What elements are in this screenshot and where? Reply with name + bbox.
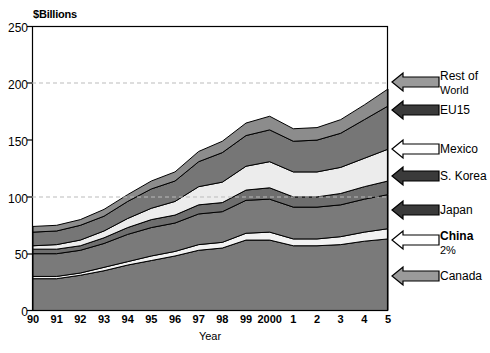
legend-label-rest-of-world: Rest of	[440, 70, 478, 82]
legend-sublabel-rest-of-world: World	[440, 84, 469, 96]
legend-arrow-mexico	[392, 140, 439, 158]
chart-plot-svg	[0, 0, 490, 353]
legend-arrow-rest-of-world	[392, 73, 439, 91]
x-axis-title: Year	[175, 330, 245, 342]
legend-arrow-china	[392, 231, 439, 249]
legend-sublabel-china: 2%	[440, 244, 456, 256]
legend-label-s-korea: S. Korea	[440, 170, 487, 182]
legend-arrow-japan	[392, 201, 439, 219]
legend-label-china: China	[440, 230, 473, 242]
legend-arrow-s-korea	[392, 167, 439, 185]
legend-arrow-canada	[392, 267, 439, 285]
legend-label-eu15: EU15	[440, 104, 470, 116]
legend-label-mexico: Mexico	[440, 143, 478, 155]
x-tick-5: 5	[372, 313, 404, 325]
legend-label-canada: Canada	[440, 270, 482, 282]
legend-label-japan: Japan	[440, 204, 473, 216]
chart-container: $Billions 250 200 150 100 50 0 909192939…	[0, 0, 490, 353]
legend-arrow-eu15	[392, 101, 439, 119]
